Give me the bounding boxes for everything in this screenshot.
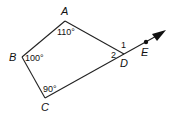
point-label-e: E [141,46,149,58]
point-e [144,40,148,44]
vertex-label-c: C [41,101,49,113]
vertex-label-d: D [120,57,128,69]
angle-label-2: 2 [111,50,116,60]
edge-bc [22,57,45,98]
angle-label-b: 100° [25,53,44,63]
vertex-label-b: B [9,51,16,63]
vertex-label-a: A [60,5,68,17]
angle-label-c: 90° [43,84,57,94]
geometry-diagram: A B C D E 110° 100° 90° 2 1 [0,0,175,118]
arrowhead-icon [152,30,166,41]
angle-label-a: 110° [57,27,75,37]
angle-label-1: 1 [121,40,126,50]
edge-cd [45,54,124,98]
